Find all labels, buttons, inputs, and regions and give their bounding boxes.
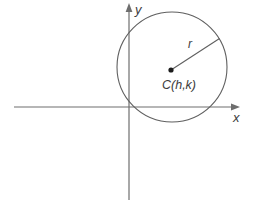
radius-line	[171, 39, 220, 71]
y-axis-arrowhead-icon	[126, 3, 133, 12]
center-point-dot	[168, 67, 173, 72]
diagram-canvas: y x r C(h,k)	[0, 0, 258, 215]
center-label: C(h,k)	[162, 78, 196, 92]
circle-diagram-figure: y x r C(h,k)	[0, 0, 258, 215]
radius-label: r	[188, 37, 193, 51]
circle-outline	[117, 12, 227, 122]
x-axis-label: x	[232, 110, 240, 125]
y-axis-label: y	[134, 2, 143, 17]
